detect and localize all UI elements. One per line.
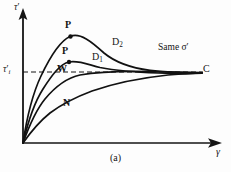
x-axis [23,138,222,148]
peak-marker-d2 [68,34,72,38]
curve-w [23,71,202,143]
same-sigma-prime: ′ [187,42,189,52]
curve-label-w: W [57,64,67,74]
y-axis-label: τ′ [14,3,19,13]
curve-n [23,73,202,143]
curve-label-d2: D2 [112,37,123,49]
peak-label-upper: P [65,20,71,30]
figure-container: P P D2 D1 W N C Same σ′ τ′ τ′i γ (a) [0,0,231,172]
same-sigma-text: Same σ [158,42,187,52]
curve-label-n: N [63,98,70,108]
y-tick-label-tau-i: τ′i [3,65,10,76]
stress-strain-plot [0,0,231,172]
curve-label-d1: D1 [92,52,103,64]
y-tick-subscript: i [8,68,10,75]
curve-label-d1-subscript: 1 [99,56,103,64]
curve-label-d2-subscript: 2 [119,41,123,49]
same-sigma-note: Same σ′ [158,43,189,53]
peak-label-lower: P [62,46,68,56]
critical-state-label-c: C [203,64,210,74]
y-axis-label-prime: ′ [17,2,19,12]
figure-caption: (a) [0,152,231,163]
peak-marker-d1 [67,60,71,64]
